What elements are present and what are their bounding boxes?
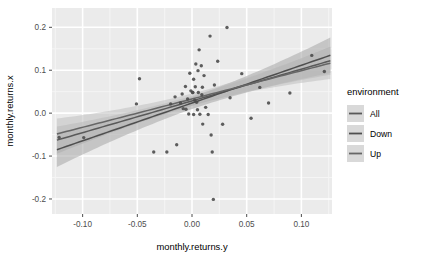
scatter-point (249, 117, 252, 120)
scatter-point (188, 72, 191, 75)
scatter-point (192, 78, 195, 81)
scatter-point (310, 54, 313, 57)
legend-item-label-all: All (370, 109, 380, 119)
scatter-point (323, 70, 326, 73)
scatter-point (208, 34, 211, 37)
scatter-point (192, 113, 195, 116)
scatter-point (221, 123, 224, 126)
scatter-point (225, 26, 228, 29)
x-axis-title: monthly.returns.y (156, 241, 228, 252)
y-tick-label: 0.2 (35, 23, 47, 32)
scatter-point (82, 136, 85, 139)
scatter-point (201, 122, 204, 125)
scatter-point (175, 143, 178, 146)
scatter-point (211, 150, 214, 153)
y-tick-label: -0.2 (32, 195, 47, 204)
scatter-point (216, 60, 219, 63)
scatter-point (202, 74, 205, 77)
x-tick-label: 0.05 (239, 220, 255, 229)
legend-item-label-down: Down (370, 129, 392, 139)
scatter-point (184, 85, 187, 88)
scatter-point (258, 86, 261, 89)
scatter-point (204, 106, 207, 109)
scatter-point (194, 85, 197, 88)
scatter-point (194, 62, 197, 65)
scatter-point (200, 93, 203, 96)
scatter-point (57, 136, 60, 139)
scatter-point (196, 108, 199, 111)
chart-canvas: -0.10-0.050.000.050.10 -0.2-0.10.00.10.2… (0, 0, 424, 266)
scatter-point (212, 198, 215, 201)
scatter-point (196, 69, 199, 72)
scatter-point (228, 96, 231, 99)
scatter-point (191, 91, 194, 94)
scatter-point (187, 112, 190, 115)
scatter-point (197, 48, 200, 51)
scatter-point (179, 101, 182, 104)
scatter-point (173, 95, 176, 98)
y-tick-label: -0.1 (32, 152, 47, 161)
x-tick-label: 0.00 (184, 220, 200, 229)
y-axis-title: monthly.returns.x (4, 75, 15, 147)
scatter-point (138, 77, 141, 80)
scatter-point (267, 101, 270, 104)
scatter-point (201, 85, 204, 88)
scatter-point (198, 113, 201, 116)
scatter-plot-figure: -0.10-0.050.000.050.10 -0.2-0.10.00.10.2… (0, 0, 424, 266)
scatter-point (240, 72, 243, 75)
scatter-point (197, 91, 200, 94)
scatter-point (152, 150, 155, 153)
scatter-point (184, 108, 187, 111)
y-tick-label: 0.1 (35, 66, 47, 75)
scatter-point (169, 102, 172, 105)
x-tick-label: 0.10 (293, 220, 309, 229)
scatter-point (209, 133, 212, 136)
scatter-point (186, 97, 189, 100)
x-tick-label: -0.10 (73, 220, 92, 229)
x-tick-label: -0.05 (128, 220, 147, 229)
scatter-point (135, 102, 138, 105)
legend-title: environment (347, 86, 399, 97)
scatter-point (200, 64, 203, 67)
y-tick-label: 0.0 (35, 109, 47, 118)
scatter-point (195, 101, 198, 104)
scatter-point (180, 92, 183, 95)
legend-item-label-up: Up (370, 149, 381, 159)
scatter-point (165, 150, 168, 153)
scatter-point (213, 83, 216, 86)
scatter-point (288, 91, 291, 94)
scatter-point (206, 113, 209, 116)
